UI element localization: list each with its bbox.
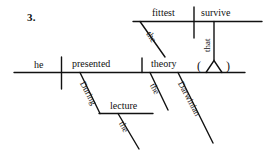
placeholder-paren-close: ) <box>226 60 230 72</box>
exercise-number: 3. <box>27 12 36 23</box>
placeholder-caret <box>206 61 222 73</box>
word-verb-presented: presented <box>72 59 110 69</box>
word-connector-that: that <box>203 39 212 53</box>
word-object-theory: theory <box>151 59 177 69</box>
word-subordinate-subject-fittest: fittest <box>152 8 175 18</box>
word-subject-he: he <box>34 60 43 70</box>
placeholder-paren-open: ( <box>197 60 201 72</box>
diagram-lines <box>0 0 264 159</box>
word-subordinate-verb-survive: survive <box>201 8 230 18</box>
word-preposition-object-lecture: lecture <box>110 101 137 111</box>
sentence-diagram-figure: 3. he presented theory fittest survive t… <box>0 0 264 159</box>
